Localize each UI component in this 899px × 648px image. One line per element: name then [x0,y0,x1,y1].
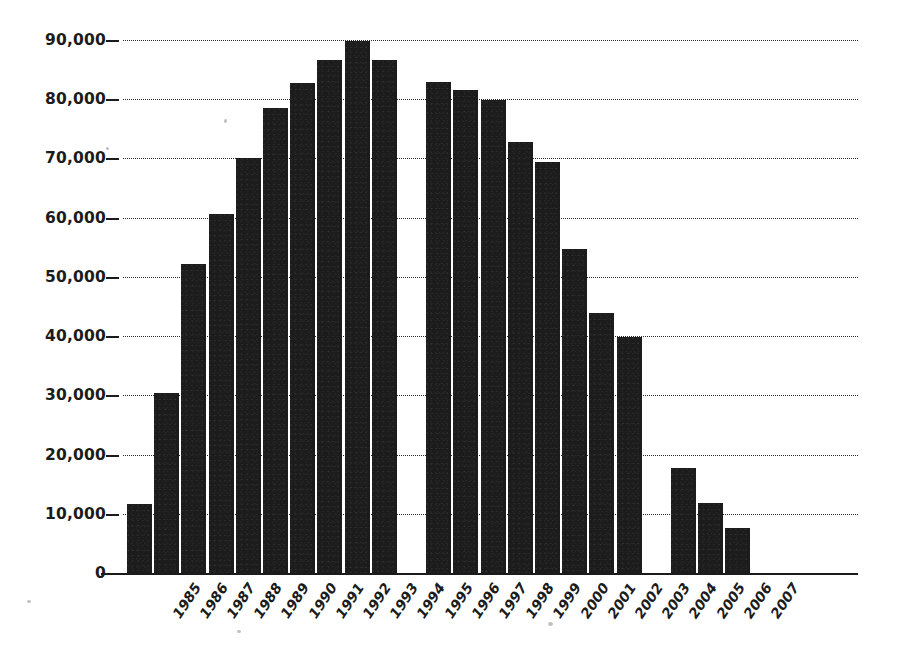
x-axis-tick-label: 1989 [277,580,312,621]
x-axis-tick-label: 1985 [169,580,204,621]
scan-speck [224,119,227,123]
y-axis-tick-mark [106,514,119,516]
bar[interactable] [589,313,614,573]
bar[interactable] [127,504,152,573]
bar[interactable] [481,100,506,573]
y-axis-tick-label: 10,000 [45,505,106,523]
y-axis-tick-mark [106,40,119,42]
bar[interactable] [535,162,560,573]
y-axis-tick-label: 20,000 [45,446,106,464]
x-axis-tick-label: 1990 [305,580,340,621]
y-axis-tick-mark [106,158,119,160]
bar[interactable] [263,108,288,573]
x-axis-tick-label: 1994 [413,580,448,621]
bar[interactable] [508,142,533,573]
bar-chart: 010,00020,00030,00040,00050,00060,00070,… [0,0,899,648]
y-axis-tick-label: 50,000 [45,268,106,286]
scan-speck [548,622,553,626]
y-axis-tick-labels: 010,00020,00030,00040,00050,00060,00070,… [0,0,106,648]
x-axis-tick-label: 1995 [441,580,476,621]
y-axis-tick-mark [106,336,119,338]
y-axis-tick-mark [106,395,119,397]
scan-speck [237,630,241,633]
x-axis-tick-label: 1999 [549,580,584,621]
bar[interactable] [671,468,696,573]
bar[interactable] [698,503,723,573]
bar[interactable] [617,337,642,573]
y-axis-tick-mark [106,455,119,457]
bar[interactable] [453,90,478,573]
y-axis-tick-label: 80,000 [45,90,106,108]
x-axis-tick-label: 2005 [713,580,748,621]
bar[interactable] [725,528,750,573]
bar[interactable] [562,249,587,573]
bar[interactable] [426,82,451,573]
y-axis-tick-mark [106,99,119,101]
bar[interactable] [181,264,206,573]
bar[interactable] [236,158,261,573]
y-axis-tick-mark [106,218,119,220]
bar[interactable] [345,41,370,573]
scan-speck [106,147,109,150]
bar[interactable] [317,60,342,573]
gridline [123,40,858,41]
plot-area [123,30,858,575]
x-axis-baseline [101,573,858,575]
y-axis-tick-label: 40,000 [45,327,106,345]
y-axis-tick-label: 30,000 [45,386,106,404]
bar[interactable] [290,83,315,573]
scan-speck [27,600,31,603]
y-axis-tick-label: 60,000 [45,209,106,227]
bar[interactable] [154,393,179,573]
x-axis-tick-labels: 1985198619871988198919901991199219931994… [123,578,883,648]
bar[interactable] [372,60,397,573]
x-axis-tick-label: 2004 [685,580,720,621]
y-axis-tick-label: 90,000 [45,31,106,49]
bar[interactable] [209,214,234,573]
x-axis-tick-label: 2000 [577,580,612,621]
y-axis-tick-mark [106,277,119,279]
y-axis-tick-label: 70,000 [45,149,106,167]
